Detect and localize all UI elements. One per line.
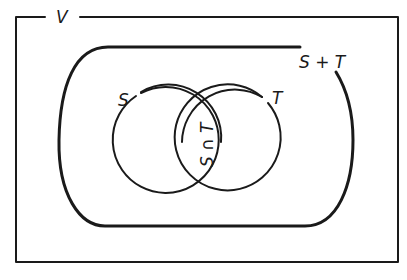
intersection-label: S ∩ T bbox=[197, 121, 217, 167]
venn-diagram: V S + T S T S ∩ T bbox=[0, 0, 407, 280]
set-t-circle bbox=[175, 84, 281, 190]
set-t-label: T bbox=[272, 88, 284, 108]
universe-label: V bbox=[56, 7, 69, 27]
union-label: S + T bbox=[299, 52, 347, 72]
set-s-label: S bbox=[118, 90, 129, 110]
